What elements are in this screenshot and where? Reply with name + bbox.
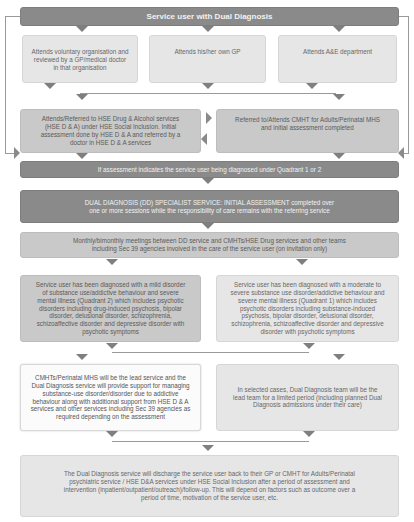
care-lead-dd-team: In selected cases, Dual Diagnosis team w…	[216, 364, 399, 431]
arrow-down-icon	[202, 178, 214, 184]
arrow-down-icon	[303, 431, 315, 437]
bidirectional-arrow-left-icon	[201, 133, 207, 145]
arrow-down-icon	[296, 259, 308, 265]
arrow-down-icon	[76, 26, 88, 32]
diagnosis-quadrant-1: Service user has been diagnosed with a m…	[216, 275, 399, 342]
referral-hse-drug-alcohol: Attends/Referred to HSE Drug & Alcohol s…	[20, 109, 201, 153]
arrow-down-icon	[106, 259, 118, 265]
arrow-down-icon	[76, 94, 88, 100]
right-feedback-top	[399, 16, 409, 17]
arrow-down-icon	[333, 354, 345, 360]
left-feedback-line	[5, 16, 6, 153]
bidirectional-arrow-right-icon	[206, 112, 212, 124]
arrow-down-icon	[333, 26, 345, 32]
cross-line	[112, 352, 309, 353]
arrow-down-icon	[306, 83, 318, 89]
arrow-down-icon	[44, 83, 56, 89]
care-lead-cmht: CMHTs/Perinatal MHS will be the lead ser…	[20, 364, 201, 431]
arrow-down-icon	[202, 445, 214, 451]
arrow-down-icon	[202, 83, 214, 89]
arrow-down-icon	[106, 343, 118, 349]
entry-ae: Attends A&E department	[278, 35, 397, 83]
merge-line	[80, 93, 336, 94]
arrow-down-icon	[333, 94, 345, 100]
arrow-down-icon	[333, 153, 345, 159]
arrow-down-icon	[202, 223, 214, 229]
specialist-assessment-box: DUAL DIAGNOSIS (DD) SPECIALIST SERVICE: …	[20, 190, 399, 223]
right-feedback-line	[408, 16, 409, 153]
discharge-box: The Dual Diagnosis service will discharg…	[20, 455, 399, 517]
left-feedback-bottom	[5, 153, 14, 154]
title-text: Service user with Dual Diagnosis	[147, 12, 273, 22]
quadrant-check-box: If assessment indicates the service user…	[20, 161, 399, 178]
referral-cmht: Referred to/Attends CMHT for Adults/Peri…	[216, 109, 399, 153]
meetings-box: Monthly/bimonthly meetings between DD se…	[20, 232, 399, 258]
arrow-down-icon	[106, 431, 118, 437]
entry-voluntary-org: Attends voluntary organisation and revie…	[22, 35, 138, 83]
title-box: Service user with Dual Diagnosis	[20, 7, 399, 26]
arrow-down-icon	[202, 26, 214, 32]
arrow-down-icon	[76, 354, 88, 360]
diagnosis-quadrant-2: Service user has been diagnosed with a m…	[20, 275, 201, 342]
entry-own-gp: Attends his/her own GP	[149, 35, 266, 83]
arrow-down-icon	[76, 153, 88, 159]
merge-line-bottom	[112, 441, 309, 442]
arrow-down-icon	[303, 343, 315, 349]
left-feedback-top	[5, 16, 20, 17]
